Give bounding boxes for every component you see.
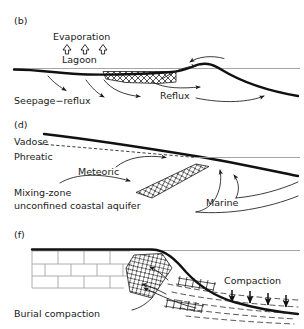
platform-brick-pattern	[32, 251, 132, 288]
evaporation-label: Evaporation	[53, 31, 110, 42]
reflux-arrow	[196, 96, 264, 102]
fluid-flow-line	[132, 298, 152, 310]
panel-f: (f)	[0, 222, 304, 329]
panel-f-label: (f)	[14, 229, 25, 240]
marine-label: Marine	[206, 197, 239, 208]
panel-f-graphic: (f)	[0, 222, 304, 329]
mixing-zone-hatch	[136, 164, 209, 198]
panel-d-label: (d)	[14, 119, 27, 130]
evaporation-up-arrow-icon	[99, 45, 107, 55]
panel-b-graphic: (b) Evaporation Lagoon	[0, 0, 304, 112]
marine-inflow-line	[236, 182, 298, 198]
panel-b: (b) Evaporation Lagoon	[0, 0, 304, 112]
panel-d: (d) Vadose Phreatic Meteoric Marine Mixi…	[0, 112, 304, 222]
water-table-dashed-line	[40, 144, 196, 158]
panel-d-graphic: (d) Vadose Phreatic Meteoric Marine Mixi…	[0, 112, 304, 222]
slope-body-hatch	[126, 254, 172, 299]
unconfined-aquifer-caption: unconfined coastal aquifer	[14, 200, 141, 211]
seepage-arrow	[48, 76, 66, 91]
basinal-strata-dashed	[168, 284, 298, 324]
panel-b-label: (b)	[14, 15, 27, 26]
lagoon-label: Lagoon	[62, 54, 97, 65]
burial-compaction-caption: Burial compaction	[14, 308, 100, 319]
mixing-zone-caption: Mixing-zone	[14, 187, 71, 198]
seepage-reflux-caption: Seepage−reflux	[14, 95, 91, 106]
marine-arrow	[234, 175, 238, 198]
compaction-label: Compaction	[224, 275, 281, 286]
evaporation-up-arrow-icon	[81, 45, 89, 55]
evaporation-arrow-group	[63, 45, 107, 55]
meteoric-arrow	[116, 156, 166, 167]
figure-root: (b) Evaporation Lagoon	[0, 0, 304, 329]
shoal-inflow-arrow	[190, 57, 224, 62]
phreatic-label: Phreatic	[14, 151, 53, 162]
reflux-label: Reflux	[160, 90, 190, 101]
evaporation-up-arrow-icon	[63, 45, 71, 55]
vadose-label: Vadose	[14, 136, 48, 147]
fracture-band-upper	[176, 276, 216, 291]
